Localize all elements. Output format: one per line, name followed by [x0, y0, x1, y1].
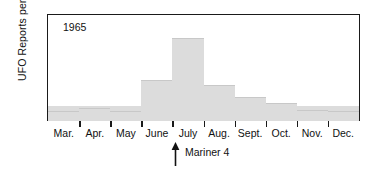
- x-axis-labels: Mar. Apr. May June July Aug. Sept. Oct. …: [48, 127, 358, 139]
- x-label-oct: Oct.: [266, 127, 297, 139]
- bar-june[interactable]: [141, 80, 172, 121]
- x-label-dec: Dec.: [328, 127, 359, 139]
- x-label-mar: Mar.: [48, 127, 79, 139]
- bar-oct[interactable]: [266, 103, 297, 121]
- up-arrow-icon: [171, 142, 180, 166]
- bar-may[interactable]: [110, 111, 141, 121]
- x-label-aug: Aug.: [204, 127, 235, 139]
- bar-nov[interactable]: [297, 110, 328, 121]
- ufo-reports-bar-chart: UFO Reports per Month 300 200 100 0 1965…: [0, 0, 370, 169]
- x-label-may: May: [110, 127, 141, 139]
- bar-july[interactable]: [172, 38, 203, 121]
- x-label-sept: Sept.: [235, 127, 266, 139]
- bar-sept[interactable]: [235, 97, 266, 121]
- bar-series: [48, 106, 358, 121]
- mariner-4-label: Mariner 4: [185, 146, 229, 158]
- bar-mar[interactable]: [48, 111, 79, 121]
- x-label-june: June: [141, 127, 172, 139]
- y-axis-title: UFO Reports per Month: [16, 0, 28, 81]
- year-label: 1965: [63, 21, 86, 33]
- bar-aug[interactable]: [204, 85, 235, 121]
- x-label-apr: Apr.: [79, 127, 110, 139]
- x-label-nov: Nov.: [297, 127, 328, 139]
- bar-dec[interactable]: [328, 111, 359, 121]
- x-label-july: July: [172, 127, 203, 139]
- bar-apr[interactable]: [79, 108, 110, 121]
